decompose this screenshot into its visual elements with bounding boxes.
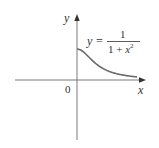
formula-numerator: 1 — [120, 28, 126, 40]
x-axis-label: x — [137, 83, 144, 97]
formula-denominator: 1 + x2 — [108, 42, 134, 55]
x-axis-arrow-icon — [139, 77, 146, 82]
formula-lhs: y = — [86, 34, 103, 48]
y-axis-label: y — [63, 11, 70, 25]
y-axis-arrow-icon — [74, 14, 79, 21]
origin-label: 0 — [65, 83, 71, 95]
function-graph: y x 0 y = 1 1 + x2 — [0, 0, 159, 148]
formula-denominator-base-const: 1 + — [108, 43, 125, 55]
formula-denominator-exp: 2 — [130, 42, 134, 50]
formula-annotation: y = 1 1 + x2 — [86, 28, 140, 55]
formula-lhs-text: y = — [86, 34, 103, 48]
